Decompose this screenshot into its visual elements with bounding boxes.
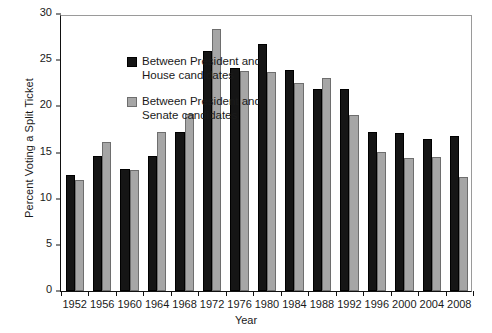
x-tick-label-1976: 1976 [226, 298, 253, 310]
bar-1988-senate [322, 78, 331, 291]
bar-group-1952 [66, 16, 84, 291]
bar-series-container [61, 16, 471, 291]
x-tick-mark [88, 291, 89, 296]
x-tick-label-1968: 1968 [171, 298, 198, 310]
bar-1984-senate [294, 83, 303, 291]
bar-1996-senate [377, 152, 386, 291]
x-tick-mark [308, 291, 309, 296]
bar-1956-senate [102, 142, 111, 291]
y-tick-label: 10 [12, 190, 52, 202]
y-tick-label: 25 [12, 52, 52, 64]
y-tick-label: 20 [12, 98, 52, 110]
x-tick-mark [143, 291, 144, 296]
x-tick-mark [418, 291, 419, 296]
y-tick-mark [56, 14, 61, 15]
x-tick-label-2008: 2008 [446, 298, 473, 310]
x-tick-mark [116, 291, 117, 296]
y-tick-label: 30 [12, 6, 52, 18]
x-tick-mark [336, 291, 337, 296]
x-tick-mark [446, 291, 447, 296]
bar-1988-house [313, 89, 322, 291]
bar-2008-house [450, 136, 459, 291]
x-tick-mark [281, 291, 282, 296]
chart-figure: Percent Voting a Split Ticket 0510152025… [0, 0, 492, 333]
bar-group-2004 [423, 16, 441, 291]
y-tick-label: 5 [12, 236, 52, 248]
x-tick-label-1964: 1964 [143, 298, 170, 310]
bar-1992-house [340, 89, 349, 291]
legend-swatch-senate-icon [127, 97, 137, 107]
bar-group-1956 [93, 16, 111, 291]
x-tick-label-1952: 1952 [61, 298, 88, 310]
bar-2000-house [395, 133, 404, 291]
plot-area: 051015202530 195219561960196419681972197… [60, 15, 472, 292]
x-tick-label-1956: 1956 [88, 298, 115, 310]
x-tick-label-1992: 1992 [336, 298, 363, 310]
bar-group-1984 [285, 16, 303, 291]
bar-1960-senate [130, 170, 139, 291]
x-tick-label-1996: 1996 [363, 298, 390, 310]
x-tick-mark [198, 291, 199, 296]
x-tick-mark [253, 291, 254, 296]
bar-1992-senate [349, 115, 358, 291]
bar-group-1988 [313, 16, 331, 291]
x-tick-mark [61, 291, 62, 296]
y-tick-label: 15 [12, 144, 52, 156]
legend-swatch-house-icon [127, 57, 137, 67]
x-tick-mark [473, 291, 474, 296]
x-tick-label-1960: 1960 [116, 298, 143, 310]
bar-group-1992 [340, 16, 358, 291]
x-tick-mark [226, 291, 227, 296]
bar-2000-senate [404, 158, 413, 291]
legend-item-senate: Between President and Senate candidates [127, 94, 261, 122]
x-tick-label-1972: 1972 [198, 298, 225, 310]
legend-label-senate: Between President and Senate candidates [142, 94, 261, 122]
legend-label-house: Between President and House candidates [142, 54, 261, 82]
bar-1980-senate [267, 72, 276, 291]
legend-item-house: Between President and House candidates [127, 54, 261, 82]
bar-1952-senate [75, 180, 84, 291]
x-tick-mark [171, 291, 172, 296]
bar-1964-house [148, 156, 157, 291]
bar-1996-house [368, 132, 377, 291]
bar-2004-senate [432, 157, 441, 291]
x-tick-mark [363, 291, 364, 296]
x-tick-label-2000: 2000 [391, 298, 418, 310]
bar-1960-house [120, 169, 129, 291]
bar-1964-senate [157, 132, 166, 291]
x-tick-label-2004: 2004 [418, 298, 445, 310]
x-tick-label-1988: 1988 [308, 298, 335, 310]
bar-1984-house [285, 70, 294, 291]
bar-1968-house [175, 132, 184, 291]
bar-2008-senate [459, 177, 468, 291]
bar-1952-house [66, 175, 75, 291]
x-tick-label-1980: 1980 [253, 298, 280, 310]
bar-2004-house [423, 139, 432, 291]
x-tick-mark [391, 291, 392, 296]
chart-legend: Between President and House candidates B… [127, 54, 261, 122]
x-axis-title: Year [0, 314, 492, 326]
bar-1968-senate [185, 114, 194, 291]
bar-group-1996 [368, 16, 386, 291]
y-tick-label: 0 [12, 283, 52, 295]
x-tick-label-1984: 1984 [281, 298, 308, 310]
bar-1956-house [93, 156, 102, 291]
bar-group-2008 [450, 16, 468, 291]
bar-group-2000 [395, 16, 413, 291]
